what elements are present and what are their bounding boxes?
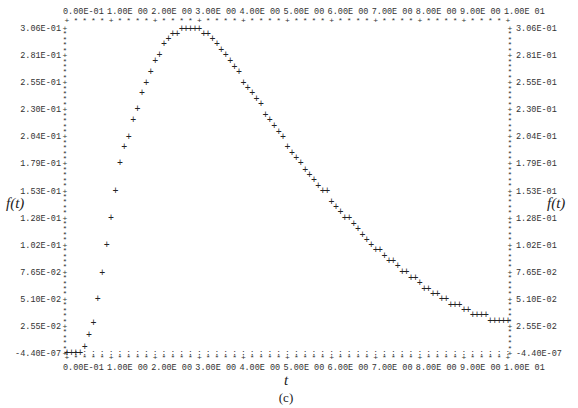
data-point: + — [108, 213, 114, 224]
plot-frame: ++:**:**:**:**:++:**:**:**:**:++:**:**:*… — [63, 16, 513, 362]
y-tick-label: 1.53E-01 — [20, 187, 61, 197]
y-tick-label: 3.06E-01 — [20, 24, 61, 34]
border-mark: : — [206, 348, 211, 357]
y-tick-label: 2.55E-01 — [20, 78, 61, 88]
border-mark: + — [461, 16, 466, 25]
border-mark: * — [435, 16, 440, 25]
border-mark: : — [417, 348, 422, 357]
data-point: + — [86, 330, 92, 341]
border-mark: : — [250, 348, 255, 357]
x-tick-label: 2.00E 00 — [151, 363, 192, 373]
border-mark: : — [188, 348, 193, 357]
x-tick-label: 1.00E 01 — [504, 7, 545, 17]
data-point: + — [117, 158, 123, 169]
border-mark: * — [479, 16, 484, 25]
border-mark: : — [285, 348, 290, 357]
y-tick-label: 1.02E-01 — [20, 241, 61, 251]
border-mark: * — [100, 16, 105, 25]
border-mark: * — [453, 16, 458, 25]
border-mark: : — [338, 348, 343, 357]
border-mark: * — [400, 16, 405, 25]
border-mark: : — [267, 348, 272, 357]
data-point: + — [143, 78, 149, 89]
y-tick-label: 2.81E-01 — [20, 51, 61, 61]
border-mark: * — [267, 16, 272, 25]
x-tick-label: 0.00E-01 — [63, 363, 104, 373]
data-point: + — [113, 186, 119, 197]
y-tick-label: 2.55E-02 — [516, 322, 557, 332]
border-mark: : — [170, 348, 175, 357]
data-point: + — [99, 268, 105, 279]
data-point: + — [139, 88, 145, 99]
border-mark: * — [312, 16, 317, 25]
border-mark: : — [444, 348, 449, 357]
border-mark: * — [294, 16, 299, 25]
border-mark: : — [109, 348, 114, 357]
border-mark: : — [153, 348, 158, 357]
data-point: + — [135, 104, 141, 115]
figure-caption: (c) — [279, 390, 293, 405]
y-tick-label: 2.30E-01 — [516, 105, 557, 115]
border-mark: : — [479, 348, 484, 357]
border-mark: * — [338, 16, 343, 25]
border-mark: * — [409, 16, 414, 25]
border-mark: : — [232, 348, 237, 357]
border-mark: * — [118, 16, 123, 25]
line-printer-plot: ++:**:**:**:**:++:**:**:**:**:++:**:**:*… — [0, 0, 578, 408]
y-tick-label: 2.55E-02 — [20, 322, 61, 332]
border-mark: : — [400, 348, 405, 357]
border-mark: * — [215, 16, 220, 25]
border-mark: : — [347, 348, 352, 357]
y-tick-label: 1.79E-01 — [516, 159, 557, 169]
data-point: + — [130, 115, 136, 126]
border-mark: : — [241, 348, 246, 357]
border-mark: + — [508, 349, 513, 358]
x-tick-labels-top: 0.00E-011.00E 002.00E 003.00E 004.00E 00… — [63, 7, 545, 17]
data-point: + — [90, 318, 96, 329]
x-tick-label: 1.00E 01 — [504, 363, 545, 373]
border-mark: * — [82, 16, 87, 25]
border-mark: * — [162, 16, 167, 25]
border-mark: : — [320, 348, 325, 357]
border-mark: : — [470, 348, 475, 357]
y-tick-labels-left: 3.06E-012.81E-012.55E-012.30E-012.04E-01… — [15, 24, 61, 359]
y-tick-label: 1.28E-01 — [20, 214, 61, 224]
y-axis-label-right: f(t) — [547, 195, 565, 212]
border-mark: * — [259, 16, 264, 25]
border-mark: * — [303, 16, 308, 25]
border-mark: * — [126, 16, 131, 25]
border-mark: : — [391, 348, 396, 357]
x-tick-label: 9.00E 00 — [460, 7, 501, 17]
x-tick-label: 4.00E 00 — [239, 7, 280, 17]
x-tick-label: 4.00E 00 — [239, 363, 280, 373]
border-mark: : — [426, 348, 431, 357]
border-mark: : — [329, 348, 334, 357]
border-mark: * — [444, 16, 449, 25]
border-mark: * — [232, 16, 237, 25]
border-mark: : — [356, 348, 361, 357]
border-mark: : — [162, 348, 167, 357]
x-tick-label: 8.00E 00 — [416, 7, 457, 17]
border-mark: : — [364, 348, 369, 357]
y-tick-label: 5.10E-02 — [516, 295, 557, 305]
border-mark: + — [285, 16, 290, 25]
x-tick-label: 9.00E 00 — [460, 363, 501, 373]
data-points: ++++++++++++++++++++++++++++++++++++++++… — [64, 24, 511, 360]
border-mark: + — [373, 16, 378, 25]
border-mark: : — [497, 348, 502, 357]
data-point: + — [157, 50, 163, 61]
x-tick-label: 3.00E 00 — [195, 363, 236, 373]
border-mark: : — [435, 348, 440, 357]
x-tick-label: 7.00E 00 — [372, 7, 413, 17]
border-mark: + — [329, 16, 334, 25]
y-tick-labels-right: 3.06E-012.81E-012.55E-012.30E-012.04E-01… — [516, 24, 562, 359]
border-mark: + — [153, 16, 158, 25]
border-mark: * — [206, 16, 211, 25]
x-tick-label: 8.00E 00 — [416, 363, 457, 373]
border-mark: * — [488, 16, 493, 25]
border-mark: : — [303, 348, 308, 357]
data-point: + — [236, 67, 242, 78]
data-point: + — [82, 342, 88, 353]
border-mark: : — [382, 348, 387, 357]
data-point: + — [505, 316, 511, 327]
